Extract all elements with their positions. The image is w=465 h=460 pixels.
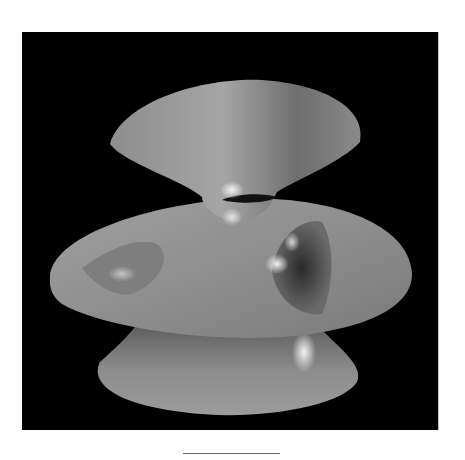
figure-panel [22,32,439,430]
upper-neck [110,80,361,226]
minimal-surface-render [22,32,438,430]
caption-rule [183,453,280,454]
